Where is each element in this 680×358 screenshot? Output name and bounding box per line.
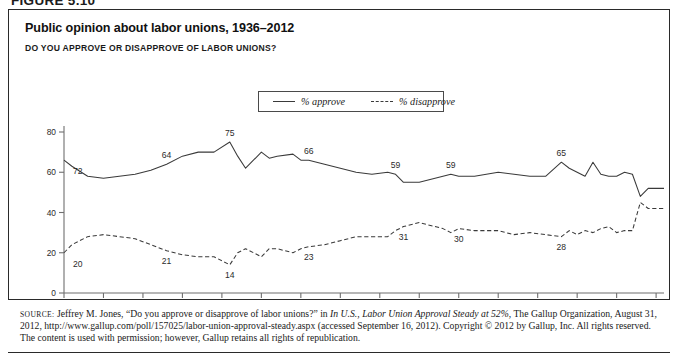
data-label: 21 [162,256,172,266]
data-label: 72 [73,166,83,176]
data-label: 30 [454,234,464,244]
bottom-divider [8,352,670,353]
data-label: 64 [162,150,172,160]
plot-area: 0204060801936194119461951195619611966197… [9,10,671,301]
data-label: 59 [446,160,456,170]
figure-number-label: FIGURE 5.10 [11,0,95,8]
svg-text:20: 20 [47,248,57,258]
data-label: 75 [225,128,235,138]
series-layer [64,142,664,265]
source-text-1: Jeffrey M. Jones, “Do you approve or dis… [55,308,331,319]
data-label: 23 [304,252,314,262]
series-line-approve [64,142,664,196]
source-italic-title: In U.S., Labor Union Approval Steady at … [330,308,509,319]
series-line-disapprove [64,202,664,264]
figure-panel: Public opinion about labor unions, 1936–… [8,9,670,300]
data-label: 59 [391,160,401,170]
data-label: 14 [225,270,235,280]
svg-text:0: 0 [51,288,56,298]
data-label: 65 [557,148,567,158]
data-label: 66 [304,146,314,156]
svg-text:40: 40 [47,208,57,218]
source-prefix: SOURCE: [20,310,55,319]
figure-root: FIGURE 5.10 Public opinion about labor u… [0,0,680,358]
data-label: 28 [557,242,567,252]
data-label: 31 [399,232,409,242]
data-label: 20 [73,259,83,269]
source-note: SOURCE: Jeffrey M. Jones, “Do you approv… [20,308,666,345]
data-label-layer: 72647566595965522021142331302842 [73,128,671,280]
line-chart-svg: 0204060801936194119461951195619611966197… [9,10,671,301]
axis-layer: 0204060801936194119461951195619611966197… [47,126,666,301]
svg-text:80: 80 [47,127,57,137]
svg-text:60: 60 [47,167,57,177]
